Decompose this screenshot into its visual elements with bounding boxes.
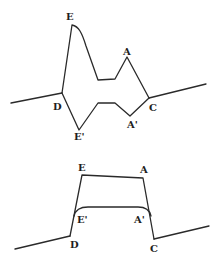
bottom-left-line (15, 236, 70, 249)
top-label-e: E (66, 11, 74, 22)
top-label-e-prime: E' (74, 131, 85, 142)
top-label-d: D (53, 101, 62, 112)
top-diagram: E A D C E' A' (11, 11, 206, 142)
top-label-a-prime: A' (126, 119, 138, 130)
top-label-c: C (149, 102, 157, 113)
bottom-diagram: E A E' A' D C (15, 162, 209, 254)
bottom-label-c: C (150, 243, 158, 254)
bottom-label-d: D (70, 239, 79, 250)
bottom-label-e-prime: E' (77, 214, 88, 225)
bottom-label-e: E (78, 162, 86, 173)
bottom-right-line (154, 226, 209, 239)
top-upper-profile (62, 25, 149, 98)
top-right-line (149, 84, 206, 98)
top-label-a: A (122, 46, 131, 57)
deformation-diagram: E A D C E' A' E A E' A' D C (0, 0, 218, 264)
bottom-label-a-prime: A' (133, 214, 145, 225)
bottom-label-a: A (139, 164, 148, 175)
